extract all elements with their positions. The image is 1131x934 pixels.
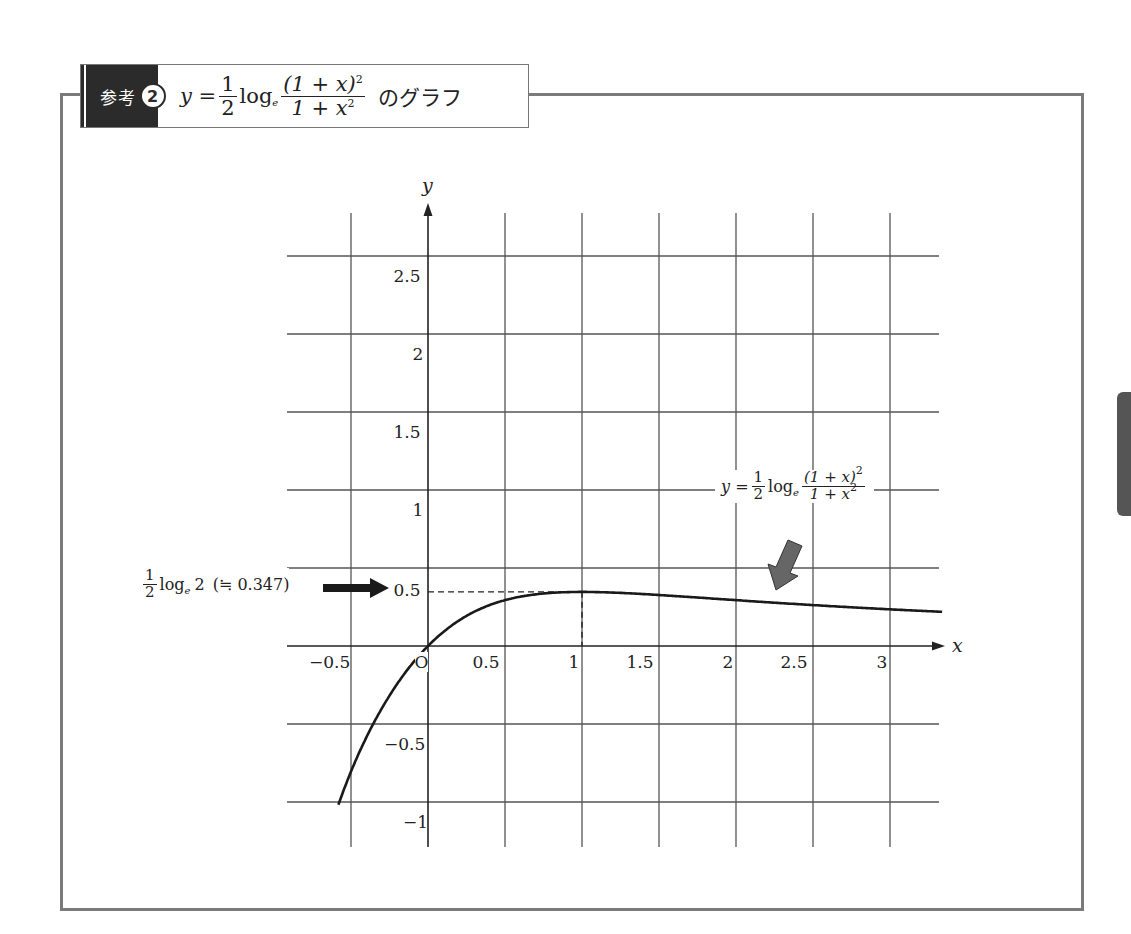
x-tick-label: 2: [723, 652, 734, 672]
curve-log-base: e: [793, 487, 799, 498]
curve-log: log: [768, 477, 793, 496]
x-axis-label: x: [952, 634, 963, 656]
origin-label: O: [415, 652, 429, 672]
black-right-arrow-icon: [323, 578, 389, 598]
max-log-base: e: [185, 585, 191, 596]
gray-down-left-arrow-icon: [768, 540, 802, 590]
max-approx: (≒ 0.347): [213, 575, 290, 594]
y-tick-label: 1: [413, 500, 424, 520]
y-tick-label: 2: [413, 344, 424, 364]
curve-coef-den: 2: [754, 487, 764, 503]
y-tick-label: −0.5: [384, 734, 425, 754]
y-axis-arrow-icon: [424, 203, 433, 216]
x-tick-label: −0.5: [309, 652, 350, 672]
x-tick-label: 0.5: [473, 652, 500, 672]
max-coef: 1 2: [143, 568, 157, 601]
y-axis-label: y: [421, 174, 433, 196]
max-log: log: [160, 575, 185, 594]
curve-label: y = 1 2 loge (1 + x)2 1 + x2: [715, 470, 874, 503]
x-tick-label: 1.5: [627, 652, 654, 672]
max-coef-den: 2: [145, 585, 155, 601]
curve-frac-den: 1 + x2: [810, 487, 857, 503]
y-tick-label: 2.5: [394, 266, 421, 286]
curve-label-coef: 1 2: [752, 470, 766, 503]
max-log-arg: 2: [194, 575, 204, 594]
x-tick-label: 1: [569, 652, 580, 672]
curve-label-prefix: y =: [721, 477, 749, 496]
curve-num-exp: 2: [856, 464, 863, 477]
curve-den-text: 1 + x: [810, 485, 850, 503]
max-value-label: 1 2 loge 2 (≒ 0.347): [140, 568, 289, 601]
y-tick-label: 1.5: [394, 422, 421, 442]
x-axis-arrow-icon: [932, 642, 945, 651]
curve-den-exp: 2: [850, 481, 857, 494]
curve-label-fraction: (1 + x)2 1 + x2: [802, 470, 865, 503]
x-tick-label: 2.5: [781, 652, 808, 672]
y-tick-label: 0.5: [394, 580, 421, 600]
x-tick-label: 3: [877, 652, 888, 672]
curve-num-text: (1 + x): [804, 468, 856, 486]
function-curve: [338, 592, 942, 805]
y-tick-label: −1: [403, 812, 428, 832]
